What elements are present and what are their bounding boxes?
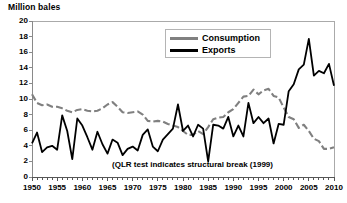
y-tick-label: 14 bbox=[14, 64, 28, 72]
y-tick-label: 16 bbox=[14, 48, 28, 56]
x-tick-label: 1985 bbox=[195, 183, 221, 192]
x-tick-label: 1980 bbox=[170, 183, 196, 192]
x-tick-label: 2005 bbox=[296, 183, 322, 192]
y-tick-label: 6 bbox=[14, 126, 28, 134]
legend-swatch-exports-icon bbox=[170, 49, 198, 52]
y-tick-label: 0 bbox=[14, 173, 28, 181]
y-tick-label: 2 bbox=[14, 157, 28, 165]
y-tick-label: 18 bbox=[14, 33, 28, 41]
legend-swatch-consumption-icon bbox=[170, 37, 198, 40]
x-tick-label: 1965 bbox=[95, 183, 121, 192]
y-tick-label: 10 bbox=[14, 95, 28, 103]
structural-break-annotation: (QLR test indicates structural break (19… bbox=[112, 160, 273, 169]
x-tick-label: 1995 bbox=[246, 183, 272, 192]
y-tick-label: 8 bbox=[14, 111, 28, 119]
chart-legend: Consumption Exports bbox=[165, 29, 271, 58]
x-tick-label: 2010 bbox=[321, 183, 347, 192]
y-tick-label: 12 bbox=[14, 79, 28, 87]
legend-item-exports: Exports bbox=[170, 44, 236, 57]
x-tick-label: 1975 bbox=[145, 183, 171, 192]
y-tick-label: 4 bbox=[14, 142, 28, 150]
x-tick-label: 1950 bbox=[19, 183, 45, 192]
legend-label-exports: Exports bbox=[202, 46, 236, 55]
legend-label-consumption: Consumption bbox=[202, 34, 260, 43]
x-tick-label: 1960 bbox=[69, 183, 95, 192]
x-tick-label: 1990 bbox=[220, 183, 246, 192]
x-tick-label: 2000 bbox=[271, 183, 297, 192]
x-tick-label: 1970 bbox=[120, 183, 146, 192]
y-tick-label: 20 bbox=[14, 17, 28, 25]
x-tick-label: 1955 bbox=[44, 183, 70, 192]
